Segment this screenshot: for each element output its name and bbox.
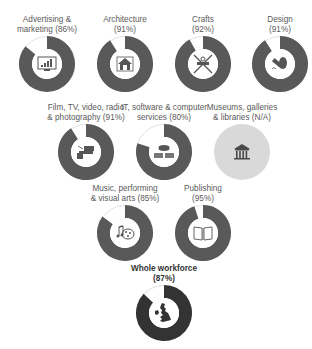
label-line-1: Whole workforce (131, 264, 197, 274)
chart-label-film: Film, TV, video, radio& photography (91%… (47, 103, 124, 123)
chart-label-advertising: Advertising &marketing (86%) (17, 15, 77, 35)
label-line-2: & libraries (N/A) (207, 113, 278, 123)
label-line-1: IT, software & computer (121, 103, 207, 113)
label-line-2: (92%) (192, 25, 214, 35)
label-line-1: Museums, galleries (207, 103, 278, 113)
chart-label-publishing: Publishing(95%) (184, 184, 222, 204)
label-line-2: (91%) (103, 25, 147, 35)
donut-chart-publishing (174, 204, 232, 262)
label-line-2: & visual arts (85%) (91, 194, 160, 204)
donut-chart-design (251, 35, 309, 93)
donut-chart-it (135, 123, 193, 181)
label-line-1: Publishing (184, 184, 222, 194)
chart-label-music: Music, performing& visual arts (85%) (91, 184, 160, 204)
label-line-2: & photography (91%) (47, 113, 124, 123)
donut-chart-museums (213, 123, 271, 181)
chart-label-design: Design(91%) (267, 15, 293, 35)
label-line-2: (87%) (131, 274, 197, 284)
chart-label-whole: Whole workforce(87%) (131, 264, 197, 284)
label-line-2: marketing (86%) (17, 25, 77, 35)
label-line-1: Architecture (103, 15, 147, 25)
label-line-1: Advertising & (17, 15, 77, 25)
donut-chart-advertising (18, 35, 76, 93)
label-line-1: Design (267, 15, 293, 25)
label-line-1: Music, performing (91, 184, 160, 194)
chart-label-museums: Museums, galleries& libraries (N/A) (207, 103, 278, 123)
label-line-1: Film, TV, video, radio (47, 103, 124, 113)
chart-label-it: IT, software & computerservices (80%) (121, 103, 207, 123)
label-line-2: (91%) (267, 25, 293, 35)
chart-label-architecture: Architecture(91%) (103, 15, 147, 35)
label-line-1: Crafts (192, 15, 214, 25)
chart-label-crafts: Crafts(92%) (192, 15, 214, 35)
donut-chart-music (96, 204, 154, 262)
label-line-2: (95%) (184, 194, 222, 204)
label-line-2: services (80%) (121, 113, 207, 123)
donut-chart-crafts (174, 35, 232, 93)
donut-chart-architecture (96, 35, 154, 93)
donut-chart-whole (135, 284, 193, 342)
donut-chart-film (57, 123, 115, 181)
